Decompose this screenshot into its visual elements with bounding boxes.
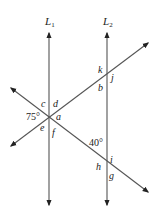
angle-label-h: h: [96, 161, 101, 172]
transversal-rising: [11, 43, 148, 146]
geometry-diagram: L1 L2 c d 75° a e f k j b 40° i h g: [0, 0, 157, 217]
angle-label-c: c: [41, 98, 46, 109]
angle-40: 40°: [89, 137, 103, 148]
angle-label-d: d: [53, 98, 59, 109]
transversal-falling: [11, 88, 148, 192]
angle-label-a: a: [56, 111, 61, 122]
label-L1: L1: [44, 15, 55, 29]
angle-label-b: b: [98, 82, 103, 93]
angle-75: 75°: [26, 111, 40, 122]
angle-label-k: k: [98, 64, 103, 75]
angle-label-f: f: [52, 127, 56, 138]
angle-label-g: g: [109, 170, 114, 181]
label-L2: L2: [102, 15, 113, 29]
angle-label-i: i: [110, 154, 113, 165]
angle-label-e: e: [40, 122, 45, 133]
angle-label-j: j: [109, 72, 114, 83]
